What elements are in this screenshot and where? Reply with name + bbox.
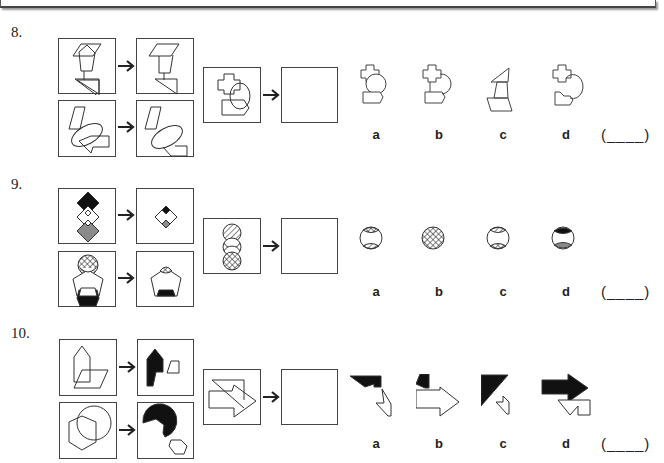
q9-example1-after [136, 188, 194, 244]
q10-answer-box[interactable] [281, 369, 338, 425]
q9-figure-icon [204, 219, 262, 275]
q10-option-d-label[interactable]: d [556, 436, 576, 451]
q8-example2-after [136, 100, 194, 157]
q10-figure-icon [138, 340, 195, 397]
q10-figure-icon [60, 403, 118, 460]
q9-figure-icon [59, 189, 117, 245]
q8-option-c-figure[interactable] [481, 62, 531, 122]
q9-option-b-figure[interactable] [416, 222, 466, 282]
q8-answer-blank[interactable]: (____) [601, 126, 650, 143]
q10-example2-before [59, 402, 117, 459]
q8-option-a-figure[interactable] [354, 62, 404, 122]
q9-figure-icon [137, 189, 195, 245]
arrow-icon [117, 59, 137, 73]
q8-option-b-label[interactable]: b [429, 127, 449, 142]
q9-option-a-label[interactable]: a [366, 284, 386, 299]
arrow-icon [118, 423, 138, 437]
question-number: 8. [11, 24, 22, 41]
q10-option-d-figure[interactable] [540, 370, 590, 430]
q9-example1-before [58, 188, 116, 244]
q9-option-d-label[interactable]: d [556, 284, 576, 299]
q8-example1-before [58, 38, 116, 94]
q8-figure-icon [59, 101, 117, 158]
q9-option-d-figure[interactable] [546, 222, 596, 282]
arrow-icon [262, 390, 282, 404]
q10-example2-after [137, 402, 194, 459]
arrow-icon [262, 88, 282, 102]
q9-example2-after [136, 251, 194, 307]
q9-figure-icon [137, 252, 195, 308]
q9-option-c-figure[interactable] [481, 222, 531, 282]
q10-option-b-label[interactable]: b [429, 436, 449, 451]
question-number: 9. [11, 176, 22, 193]
q10-figure-icon [204, 370, 262, 426]
q10-option-c-label[interactable]: c [493, 436, 513, 451]
arrow-icon [262, 239, 282, 253]
q8-option-c-label[interactable]: c [493, 127, 513, 142]
q8-question-figure [203, 67, 261, 123]
q10-example1-before [59, 339, 117, 396]
q8-answer-box[interactable] [281, 67, 338, 123]
q8-figure-icon [59, 39, 117, 95]
q8-option-a-label[interactable]: a [366, 127, 386, 142]
q8-example1-after [136, 38, 194, 94]
header-frame [0, 0, 656, 8]
q10-figure-icon [138, 403, 195, 460]
q10-answer-blank[interactable]: (____) [601, 435, 650, 452]
q9-option-c-label[interactable]: c [493, 284, 513, 299]
q9-option-a-figure[interactable] [354, 222, 404, 282]
q9-option-b-label[interactable]: b [429, 284, 449, 299]
q8-example2-before [58, 100, 116, 157]
q8-option-d-figure[interactable] [546, 62, 596, 122]
q10-option-b-figure[interactable] [416, 374, 466, 434]
q8-option-b-figure[interactable] [416, 62, 466, 122]
q8-figure-icon [137, 39, 195, 95]
q9-question-figure [203, 218, 261, 274]
arrow-icon [117, 208, 137, 222]
q10-example1-after [137, 339, 194, 396]
q8-figure-icon [204, 68, 262, 124]
q10-question-figure [203, 369, 261, 425]
question-number: 10. [11, 325, 30, 342]
q10-option-a-label[interactable]: a [366, 436, 386, 451]
arrow-icon [117, 120, 137, 134]
q8-figure-icon [137, 101, 195, 158]
q10-option-a-figure[interactable] [348, 374, 398, 434]
q9-answer-box[interactable] [281, 218, 338, 274]
q9-answer-blank[interactable]: (____) [601, 283, 650, 300]
q10-figure-icon [60, 340, 118, 397]
q9-example2-before [58, 251, 116, 307]
q8-option-d-label[interactable]: d [556, 127, 576, 142]
q10-option-c-figure[interactable] [481, 374, 531, 434]
arrow-icon [117, 271, 137, 285]
arrow-icon [118, 360, 138, 374]
q9-figure-icon [59, 252, 117, 308]
